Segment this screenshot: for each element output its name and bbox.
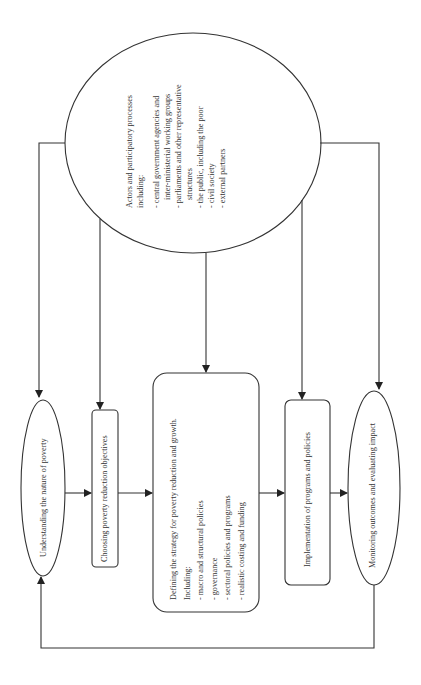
- monitoring-label: Monitoring outcomes and evaluating impac…: [367, 423, 378, 568]
- actors-item-cont: structures: [184, 84, 195, 208]
- defining-item: - macro and structural policies: [194, 418, 208, 600]
- connector-actors-understanding: [39, 143, 65, 397]
- choosing-label: Choosing poverty reduction objectives: [99, 435, 110, 562]
- defining-subtitle: Including:: [181, 418, 195, 600]
- actors-title-line-1: Actors and participatory processes: [124, 84, 135, 208]
- defining-text: Defining the strategy for poverty reduct…: [167, 418, 248, 600]
- actors-item: - the public, including the poor: [195, 84, 206, 208]
- understanding-label: Understanding the nature of poverty: [38, 438, 49, 557]
- actors-title-line-2: including:: [135, 84, 146, 208]
- defining-item: - sectoral policies and programs: [221, 418, 235, 600]
- actors-item: - parliaments and other representative: [173, 84, 184, 208]
- actors-item-cont: inter-ministerial working groups: [162, 84, 173, 208]
- connector-actors-monitoring: [320, 143, 379, 389]
- actors-item: - external partners: [217, 84, 228, 208]
- defining-item: - realistic costing and funding: [235, 418, 249, 600]
- actors-item: - central government agencies and: [151, 84, 162, 208]
- defining-label: Defining the strategy for poverty reduct…: [167, 418, 181, 600]
- actors-item: - civil society: [206, 84, 217, 208]
- defining-item: - governance: [208, 418, 222, 600]
- implementation-label: Implementation of programs and policies: [302, 432, 313, 567]
- actors-text: Actors and participatory processes inclu…: [124, 84, 228, 208]
